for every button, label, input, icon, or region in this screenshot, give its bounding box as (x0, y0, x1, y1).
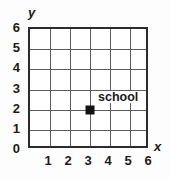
gridline-vertical (90, 29, 91, 146)
y-axis-label: y (28, 6, 35, 19)
x-tick-label: 4 (101, 154, 115, 167)
x-axis-label: x (154, 140, 161, 153)
y-tick-label: 2 (6, 102, 20, 115)
data-point-label: school (97, 91, 139, 104)
x-tick-label: 6 (141, 154, 155, 167)
y-tick-label: 3 (6, 82, 20, 95)
data-point-marker (86, 105, 95, 114)
x-tick-label: 5 (121, 154, 135, 167)
y-tick-label: 1 (6, 122, 20, 135)
y-tick-label: 5 (6, 41, 20, 54)
plot-area: school (28, 27, 148, 148)
x-tick-label: 1 (41, 154, 55, 167)
gridline-horizontal (30, 49, 146, 50)
gridline-vertical (70, 29, 71, 146)
x-tick-label: 3 (81, 154, 95, 167)
y-tick-label: 0 (6, 142, 20, 155)
gridline-horizontal (30, 69, 146, 70)
coordinate-grid-figure: y x 0123456 123456 school (0, 0, 170, 180)
gridline-vertical (110, 29, 111, 146)
gridline-horizontal (30, 130, 146, 131)
y-tick-label: 4 (6, 61, 20, 74)
gridline-vertical (50, 29, 51, 146)
x-tick-label: 2 (61, 154, 75, 167)
gridline-vertical (130, 29, 131, 146)
y-tick-label: 6 (6, 21, 20, 34)
